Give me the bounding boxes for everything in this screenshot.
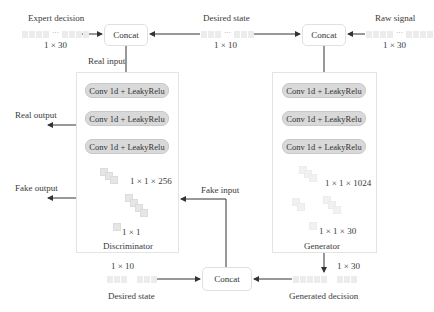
generated-decision-dim: 1 × 30 bbox=[337, 262, 360, 271]
real-input-label: Real input bbox=[88, 57, 125, 66]
fake-input-label: Fake input bbox=[201, 186, 239, 195]
ellipsis: ··· bbox=[394, 31, 405, 38]
discriminator-panel bbox=[76, 72, 179, 253]
generated-decision-signal bbox=[293, 276, 357, 283]
expert-decision-label: Expert decision bbox=[28, 14, 84, 23]
raw-signal-dim: 1 × 30 bbox=[383, 41, 406, 50]
expert-decision-dim: 1 × 30 bbox=[44, 41, 67, 50]
gen-layer-3: Conv 1d + LeakyRelu bbox=[282, 139, 366, 154]
desired-state-top-label: Desired state bbox=[203, 14, 250, 23]
disc-feature-dim: 1 × 1 × 256 bbox=[130, 177, 172, 186]
bottom-desired-state-dim: 1 × 10 bbox=[111, 262, 134, 271]
bottom-desired-state-label: Desired state bbox=[108, 292, 155, 301]
ellipsis: ··· bbox=[50, 31, 61, 38]
bottom-desired-state-signal bbox=[107, 276, 157, 283]
disc-layer-3: Conv 1d + LeakyRelu bbox=[85, 139, 169, 154]
expert-decision-signal: ··· bbox=[22, 31, 89, 38]
desired-state-top-dim: 1 × 10 bbox=[214, 41, 237, 50]
real-output-label: Real output bbox=[15, 111, 57, 120]
output-cube bbox=[113, 223, 121, 231]
feature-cube bbox=[333, 206, 341, 214]
desired-state-top-signal: ··· bbox=[201, 31, 254, 38]
discriminator-title: Discriminator bbox=[103, 242, 153, 251]
raw-signal-label: Raw signal bbox=[375, 14, 415, 23]
gen-output-dim: 1 × 1 × 30 bbox=[319, 227, 356, 236]
generator-title: Generator bbox=[304, 242, 340, 251]
feature-cube bbox=[110, 176, 118, 184]
concat-left: Concat bbox=[104, 24, 148, 46]
disc-output-dim: 1 × 1 bbox=[122, 228, 141, 237]
gen-layer-1: Conv 1d + LeakyRelu bbox=[282, 83, 366, 98]
disc-layer-2: Conv 1d + LeakyRelu bbox=[85, 111, 169, 126]
generated-decision-label: Generated decision bbox=[289, 292, 358, 301]
ellipsis: ··· bbox=[222, 31, 233, 38]
feature-cube bbox=[309, 174, 317, 182]
feature-cube bbox=[297, 203, 305, 211]
disc-layer-1: Conv 1d + LeakyRelu bbox=[85, 83, 169, 98]
raw-signal-signal: ··· bbox=[366, 31, 433, 38]
gen-layer-2: Conv 1d + LeakyRelu bbox=[282, 111, 366, 126]
output-cube bbox=[309, 222, 317, 230]
fake-output-label: Fake output bbox=[15, 184, 58, 193]
gen-feature-dim: 1 × 1 × 1024 bbox=[325, 179, 371, 188]
concat-right: Concat bbox=[302, 24, 346, 46]
feature-cube bbox=[140, 209, 148, 217]
concat-bottom: Concat bbox=[202, 267, 252, 291]
